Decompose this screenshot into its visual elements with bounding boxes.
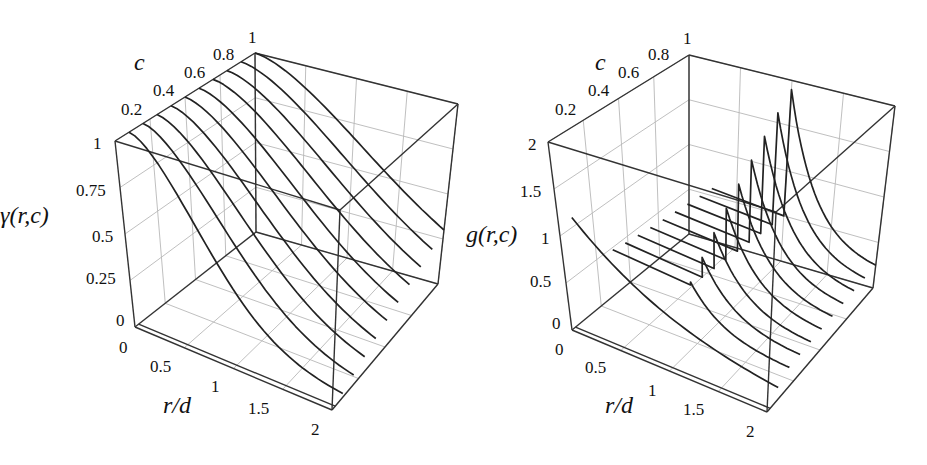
svg-text:1: 1 bbox=[211, 377, 220, 396]
svg-text:0.5: 0.5 bbox=[585, 358, 606, 377]
g-z-ticks: 2 1.5 1 0.5 0 bbox=[520, 135, 561, 333]
svg-text:1.5: 1.5 bbox=[683, 400, 704, 419]
svg-text:2: 2 bbox=[311, 420, 320, 439]
c-axis-label: c bbox=[134, 49, 145, 75]
svg-text:0.25: 0.25 bbox=[86, 269, 116, 288]
svg-text:1: 1 bbox=[248, 28, 257, 47]
svg-text:0.6: 0.6 bbox=[184, 63, 205, 82]
r-axis-label-right: r/d bbox=[605, 392, 634, 418]
g-c-ticks: 0.2 0.4 0.6 0.8 1 bbox=[555, 29, 692, 119]
svg-text:1: 1 bbox=[541, 229, 550, 248]
gamma-r-ticks: 0 0.5 1 1.5 2 bbox=[119, 338, 320, 439]
svg-text:0: 0 bbox=[552, 314, 561, 333]
svg-text:0.5: 0.5 bbox=[150, 357, 171, 376]
svg-text:0.4: 0.4 bbox=[588, 81, 610, 100]
svg-text:0.2: 0.2 bbox=[555, 100, 576, 119]
svg-text:0.5: 0.5 bbox=[92, 227, 113, 246]
svg-text:1: 1 bbox=[648, 381, 657, 400]
g-axis-label: g(r,c) bbox=[466, 221, 517, 247]
svg-text:1: 1 bbox=[93, 134, 102, 153]
svg-text:0.4: 0.4 bbox=[153, 81, 175, 100]
svg-text:0.75: 0.75 bbox=[76, 181, 106, 200]
svg-text:2: 2 bbox=[528, 135, 537, 154]
svg-text:0.8: 0.8 bbox=[213, 45, 234, 64]
r-axis-label: r/d bbox=[163, 392, 192, 418]
gamma-axis-label: γ(r,c) bbox=[0, 202, 49, 228]
c-axis-label-right: c bbox=[595, 49, 606, 75]
svg-text:0.5: 0.5 bbox=[530, 272, 551, 291]
svg-text:2: 2 bbox=[746, 422, 755, 441]
svg-text:0: 0 bbox=[116, 311, 125, 330]
svg-text:1.5: 1.5 bbox=[248, 399, 269, 418]
svg-text:0: 0 bbox=[555, 340, 564, 359]
svg-text:1: 1 bbox=[683, 29, 692, 48]
svg-text:1.5: 1.5 bbox=[520, 182, 541, 201]
figure: c γ(r,c) r/d c g(r,c) r/d 1 0.75 0.5 0.2… bbox=[0, 0, 927, 465]
svg-text:0.8: 0.8 bbox=[648, 45, 669, 64]
svg-text:0.2: 0.2 bbox=[121, 100, 142, 119]
svg-text:0: 0 bbox=[119, 338, 128, 357]
svg-text:0.6: 0.6 bbox=[618, 63, 639, 82]
